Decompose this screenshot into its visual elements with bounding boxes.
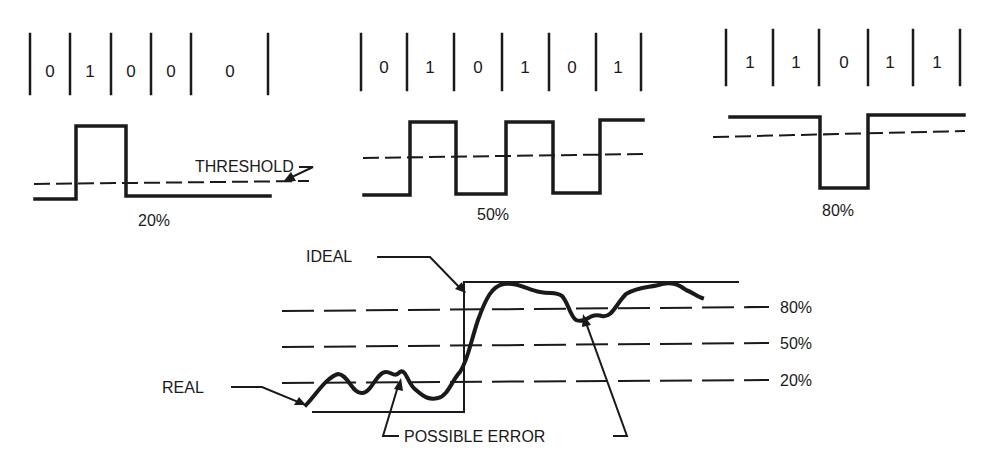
- panel-50-bit: 1: [425, 58, 434, 77]
- possible-error-bracket-left: [383, 383, 399, 436]
- panel-20-bit: 1: [85, 62, 94, 81]
- panel-50-bit: 0: [473, 58, 482, 77]
- panel-80-bit: 1: [932, 53, 941, 72]
- panel-50-bit: 1: [613, 58, 622, 77]
- panel-50-waveform: [364, 120, 643, 195]
- panel-20-caption: 20%: [138, 212, 170, 229]
- panel-80-bit: 1: [791, 53, 800, 72]
- panel-20-bit: 0: [225, 62, 234, 81]
- panel-20-bit: 0: [45, 62, 54, 81]
- possible-error-bracket-right: [585, 320, 627, 436]
- panel-80-waveform: [730, 115, 964, 188]
- level-50-line: [283, 343, 768, 347]
- panel-50-bit: 1: [520, 58, 529, 77]
- level-20-label: 20%: [780, 372, 812, 389]
- duty-cycle-diagram: 0 1 0 0 0 0 1 0 1 0 1 1 1 0 1 1 20% 50% …: [0, 0, 994, 469]
- ideal-label: IDEAL: [306, 248, 352, 265]
- real-label: REAL: [162, 379, 204, 396]
- level-50-label: 50%: [780, 335, 812, 352]
- panel-20-bit: 0: [166, 62, 175, 81]
- error-left-arrowhead-icon: [394, 378, 403, 391]
- panel-50-bit-frame: [361, 34, 641, 90]
- level-dashed-lines: [283, 307, 768, 383]
- panel-20-bit: 0: [126, 62, 135, 81]
- panel-80-threshold-line: [714, 131, 964, 137]
- panel-80-bit: 1: [745, 53, 754, 72]
- possible-error-label: POSSIBLE ERROR: [404, 428, 545, 445]
- panel-50-bit: 0: [379, 58, 388, 77]
- panel-80-bit: 0: [839, 53, 848, 72]
- level-80-label: 80%: [780, 299, 812, 316]
- threshold-label: THRESHOLD: [195, 158, 294, 175]
- panel-50-bit: 0: [567, 58, 576, 77]
- panel-80-caption: 80%: [822, 202, 854, 219]
- ideal-leader-arrow: [378, 257, 462, 290]
- panel-80-bit: 1: [885, 53, 894, 72]
- level-80-line: [283, 307, 768, 311]
- real-leader-arrow: [232, 387, 303, 404]
- panel-50-caption: 50%: [477, 206, 509, 223]
- level-20-line: [283, 380, 768, 383]
